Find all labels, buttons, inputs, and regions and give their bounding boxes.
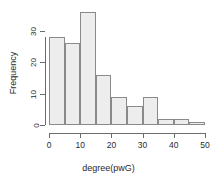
y-axis-tick — [40, 94, 45, 95]
y-axis-tick — [40, 62, 45, 63]
x-axis-tick — [174, 133, 175, 138]
y-axis-tick-label: 20 — [0, 58, 38, 67]
x-axis-tick — [111, 133, 112, 138]
y-axis-tick-label: 10 — [0, 90, 38, 99]
y-axis-line — [45, 37, 46, 125]
x-axis-tick-label: 50 — [193, 140, 217, 150]
y-axis-title: Frequency — [8, 29, 18, 117]
histogram-bar — [111, 97, 127, 125]
x-axis-line — [49, 133, 205, 134]
x-axis-tick-label: 0 — [37, 140, 61, 150]
histogram-figure: Frequency 0 10 20 30 0 10 20 30 40 50 de… — [0, 0, 217, 185]
histogram-bar — [127, 106, 143, 125]
histogram-bar — [96, 75, 112, 125]
histogram-bar — [143, 97, 159, 125]
histogram-bar — [174, 119, 190, 125]
y-axis-tick-label: 0 — [0, 121, 38, 130]
x-axis-tick-label: 30 — [131, 140, 155, 150]
x-axis-tick — [49, 133, 50, 138]
y-axis-tick-label-text: 10 — [29, 90, 38, 99]
y-axis-tick — [40, 125, 45, 126]
x-axis-tick — [143, 133, 144, 138]
x-axis-tick-label: 20 — [99, 140, 123, 150]
x-axis-tick-label: 10 — [68, 140, 92, 150]
y-axis-tick-label-text: 0 — [31, 123, 40, 127]
histogram-bar — [80, 12, 96, 125]
histogram-bar — [49, 37, 65, 125]
x-axis-title: degree(pwG) — [0, 163, 217, 173]
y-axis-tick — [40, 31, 45, 32]
y-axis-tick-label: 30 — [0, 27, 38, 36]
histogram-bar — [189, 122, 205, 125]
x-axis-tick — [205, 133, 206, 138]
plot-area — [49, 12, 205, 125]
y-axis-tick-label-text: 20 — [29, 58, 38, 67]
x-axis-tick-label: 40 — [162, 140, 186, 150]
x-axis-tick — [80, 133, 81, 138]
y-axis-tick-label-text: 30 — [29, 27, 38, 36]
histogram-bar — [65, 43, 81, 125]
histogram-bar — [158, 119, 174, 125]
